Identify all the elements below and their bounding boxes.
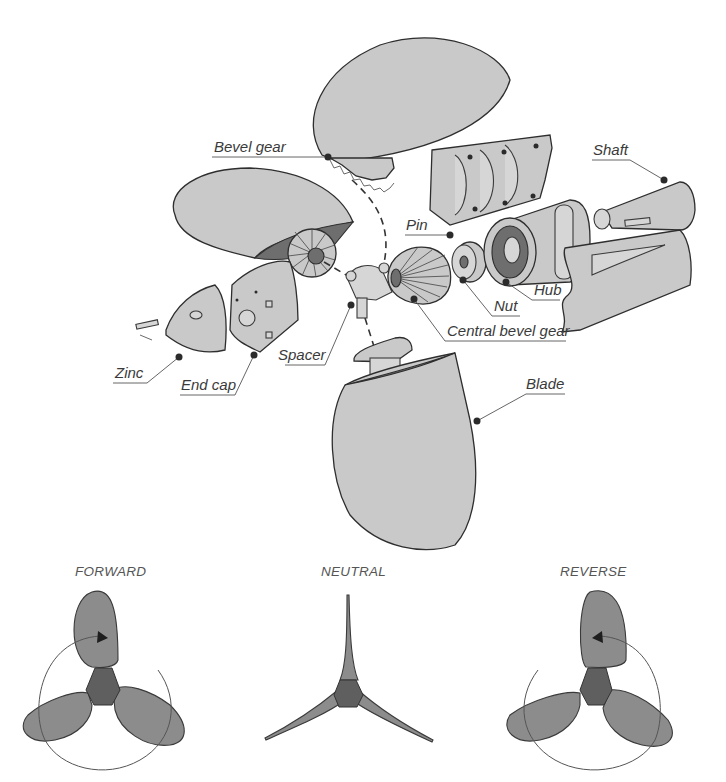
svg-text:Shaft: Shaft bbox=[593, 141, 629, 158]
central-bevel-gear-part bbox=[388, 247, 451, 304]
spacer-part bbox=[346, 263, 392, 318]
left-blade bbox=[173, 168, 353, 277]
mode-reverse: REVERSE bbox=[507, 564, 672, 770]
label-end-cap: End cap bbox=[180, 352, 258, 396]
nut-part bbox=[452, 242, 486, 282]
svg-text:FORWARD: FORWARD bbox=[75, 564, 146, 579]
label-blade: Blade bbox=[474, 375, 566, 425]
svg-text:Bevel gear: Bevel gear bbox=[214, 138, 287, 155]
mode-forward: FORWARD bbox=[23, 564, 184, 770]
label-shaft: Shaft bbox=[592, 141, 668, 184]
svg-text:NEUTRAL: NEUTRAL bbox=[321, 564, 386, 579]
svg-text:End cap: End cap bbox=[181, 376, 236, 393]
svg-text:Central bevel gear: Central bevel gear bbox=[447, 322, 571, 339]
end-cap-part bbox=[230, 261, 298, 352]
svg-text:Hub: Hub bbox=[534, 281, 562, 298]
svg-text:REVERSE: REVERSE bbox=[560, 564, 627, 579]
svg-text:Zinc: Zinc bbox=[114, 364, 144, 381]
shaft-part bbox=[594, 182, 695, 230]
mode-neutral: NEUTRAL bbox=[265, 564, 433, 742]
label-zinc: Zinc bbox=[113, 354, 183, 384]
housing-lower bbox=[562, 230, 691, 332]
svg-text:Blade: Blade bbox=[526, 375, 564, 392]
main-blade bbox=[332, 338, 475, 550]
propeller-exploded-diagram: Bevel gear Shaft Pin Nut Hub Central bev… bbox=[0, 0, 726, 782]
label-bevel-gear: Bevel gear bbox=[212, 138, 332, 161]
svg-text:Spacer: Spacer bbox=[278, 346, 327, 363]
svg-text:Pin: Pin bbox=[406, 216, 428, 233]
zinc-part bbox=[136, 285, 226, 352]
svg-text:Nut: Nut bbox=[494, 297, 518, 314]
